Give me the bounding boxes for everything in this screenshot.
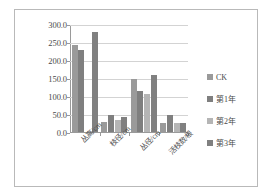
bar-group	[159, 24, 189, 132]
legend-item[interactable]: 第1年	[207, 88, 257, 110]
legend-item[interactable]: 第3年	[207, 132, 257, 154]
bar[interactable]	[144, 94, 150, 132]
legend-item[interactable]: CK	[207, 66, 257, 88]
bar[interactable]	[137, 91, 143, 132]
y-axis-labels: 0.050.0100.0150.0200.0250.0300.0	[23, 25, 67, 133]
plot-area	[70, 25, 188, 133]
legend-item[interactable]: 第2年	[207, 110, 257, 132]
y-axis-tick-label: 0.0	[25, 129, 67, 138]
bar[interactable]	[131, 79, 137, 132]
legend-swatch-icon	[207, 118, 213, 124]
bar-group	[70, 24, 100, 132]
chart-legend: CK第1年第2年第3年	[207, 66, 257, 154]
y-axis-tick-label: 50.0	[25, 111, 67, 120]
bar[interactable]	[78, 50, 84, 132]
legend-label: 第2年	[216, 117, 236, 126]
legend-swatch-icon	[207, 96, 213, 102]
bar[interactable]	[174, 123, 180, 132]
legend-label: 第1年	[216, 95, 236, 104]
bar[interactable]	[160, 123, 166, 132]
legend-label: 第3年	[216, 139, 236, 148]
legend-label: CK	[216, 73, 227, 82]
bar[interactable]	[92, 32, 98, 132]
y-axis-tick-label: 250.0	[25, 39, 67, 48]
y-axis-tick-label: 300.0	[25, 21, 67, 30]
chart-frame: 0.050.0100.0150.0200.0250.0300.0 丛高/cm枝径…	[14, 9, 258, 187]
bar-group	[129, 24, 159, 132]
bar[interactable]	[108, 115, 114, 132]
bar-group	[100, 24, 130, 132]
bar[interactable]	[72, 45, 78, 132]
bar[interactable]	[167, 115, 173, 132]
bar[interactable]	[151, 75, 157, 132]
y-axis-tick-label: 150.0	[25, 75, 67, 84]
x-axis-labels: 丛高/cm枝径/cm丛径/cm活枝数/根	[70, 134, 200, 188]
y-axis-tick-label: 100.0	[25, 93, 67, 102]
legend-swatch-icon	[207, 74, 213, 80]
legend-swatch-icon	[207, 140, 213, 146]
y-axis-tick-label: 200.0	[25, 57, 67, 66]
